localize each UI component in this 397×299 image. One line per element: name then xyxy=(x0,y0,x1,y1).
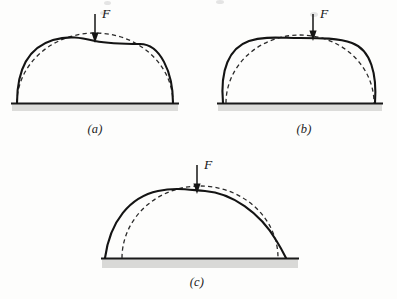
undeformed-arch-a xyxy=(17,33,173,103)
force-label-c: F xyxy=(204,157,212,173)
deformed-arch-a xyxy=(17,37,173,103)
panel-a: F xyxy=(0,0,199,115)
deformed-arch-b xyxy=(222,38,375,103)
panel-c: F xyxy=(80,155,320,275)
deformed-arch-c xyxy=(105,189,286,258)
panel-b-drawing xyxy=(199,0,397,115)
undeformed-arch-b xyxy=(226,35,374,103)
ground-shadow-a xyxy=(12,104,178,111)
undeformed-arch-c xyxy=(122,186,278,258)
ground-shadow-b xyxy=(218,104,382,111)
caption-c: (c) xyxy=(177,275,217,290)
caption-a: (a) xyxy=(75,122,115,137)
force-arrow-a xyxy=(91,14,98,43)
force-label-b: F xyxy=(320,6,328,22)
figure-page: F (a) F (b) xyxy=(0,0,397,299)
panel-c-drawing xyxy=(80,155,320,275)
caption-b: (b) xyxy=(284,122,324,137)
ground-shadow-c xyxy=(102,259,298,268)
panel-a-drawing xyxy=(0,0,199,115)
panel-b: F xyxy=(199,0,397,115)
force-label-a: F xyxy=(102,6,110,22)
